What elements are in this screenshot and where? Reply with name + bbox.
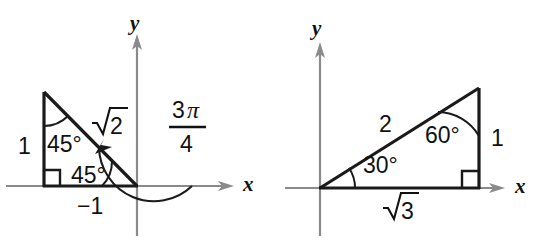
- left-angle-bottom-label: 45°: [71, 162, 106, 188]
- right-angle-arc-origin: [349, 168, 355, 188]
- right-hypotenuse-label: 2: [379, 111, 392, 137]
- right-y-axis: [315, 42, 325, 236]
- right-diagram: y x 30° 60° 2 1 3: [279, 0, 558, 242]
- left-y-axis: [132, 34, 142, 236]
- left-horizontal-leg-label: −1: [77, 193, 103, 219]
- left-rotation-label: 3 π 4: [169, 97, 206, 157]
- left-rotation-arc: [95, 139, 192, 201]
- left-x-axis-label: x: [242, 172, 254, 196]
- right-angle-apex-label: 60°: [425, 122, 460, 148]
- radical-sign-glyph: [92, 108, 110, 134]
- right-horizontal-leg-label: 3: [383, 193, 419, 224]
- left-right-angle-marker: [44, 170, 60, 186]
- figure-root: y x 45° 45° 1 −1 2: [0, 0, 558, 242]
- right-angle-origin-label: 30°: [363, 152, 398, 178]
- left-vertical-leg-label: 1: [18, 133, 31, 159]
- left-hypotenuse-label: 2: [92, 108, 128, 139]
- right-horizontal-leg-radicand: 3: [401, 198, 414, 224]
- left-angle-arc-top: [44, 116, 68, 126]
- right-right-angle-marker: [462, 171, 479, 188]
- left-rotation-arc-path: [99, 147, 192, 201]
- left-rotation-denominator: 4: [180, 131, 193, 157]
- left-diagram: y x 45° 45° 1 −1 2: [0, 0, 279, 242]
- left-rotation-numerator-coefficient: 3: [172, 97, 185, 123]
- left-y-axis-label: y: [127, 11, 140, 35]
- left-angle-top-label: 45°: [47, 131, 82, 157]
- left-rotation-numerator-pi: π: [187, 97, 200, 123]
- right-x-axis-label: x: [514, 174, 526, 198]
- right-y-axis-label: y: [309, 16, 322, 40]
- left-hypotenuse-radicand: 2: [110, 113, 123, 139]
- radical-sign-glyph: [383, 193, 401, 219]
- right-vertical-leg-label: 1: [491, 125, 504, 151]
